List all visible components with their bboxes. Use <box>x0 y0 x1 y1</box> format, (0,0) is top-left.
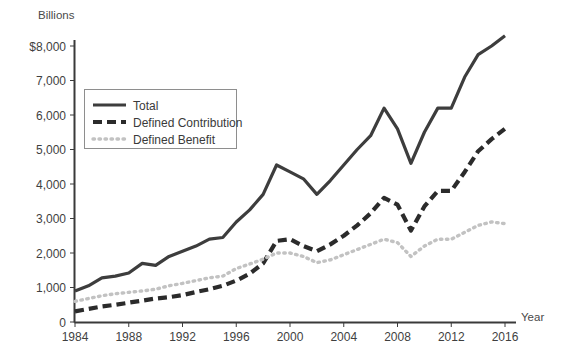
x-axis-ticks: 198419881992199620002004200820122016 <box>62 322 519 344</box>
y-axis-ticks: 01,0002,0003,0004,0005,0006,0007,000$8,0… <box>29 40 75 330</box>
y-tick-label: 4,000 <box>36 178 66 192</box>
chart-legend: TotalDefined ContributionDefined Benefit <box>85 90 243 149</box>
y-tick-label: 6,000 <box>36 109 66 123</box>
chart-container: Billions Year 01,0002,0003,0004,0005,000… <box>0 0 563 356</box>
x-tick-label: 2008 <box>384 330 411 344</box>
legend-label: Defined Benefit <box>133 133 216 147</box>
x-tick-label: 1992 <box>169 330 196 344</box>
x-tick-label: 2000 <box>277 330 304 344</box>
y-tick-label: 2,000 <box>36 247 66 261</box>
legend-label: Total <box>133 99 158 113</box>
series-line <box>75 222 505 301</box>
y-tick-label: 5,000 <box>36 143 66 157</box>
x-tick-label: 1996 <box>223 330 250 344</box>
line-chart: Billions Year 01,0002,0003,0004,0005,000… <box>0 0 563 356</box>
y-tick-label: 0 <box>59 316 66 330</box>
x-tick-label: 2012 <box>438 330 465 344</box>
x-tick-label: 1984 <box>62 330 89 344</box>
x-tick-label: 1988 <box>115 330 142 344</box>
legend-label: Defined Contribution <box>133 116 242 130</box>
y-tick-label: 3,000 <box>36 212 66 226</box>
y-axis-caption: Billions <box>38 9 75 21</box>
y-tick-label: 1,000 <box>36 281 66 295</box>
x-axis-caption: Year <box>521 311 544 323</box>
x-tick-label: 2016 <box>492 330 519 344</box>
x-tick-label: 2004 <box>330 330 357 344</box>
data-series-layer <box>75 36 505 312</box>
series-line <box>75 129 505 312</box>
y-tick-label: 7,000 <box>36 74 66 88</box>
y-tick-label: $8,000 <box>29 40 66 54</box>
